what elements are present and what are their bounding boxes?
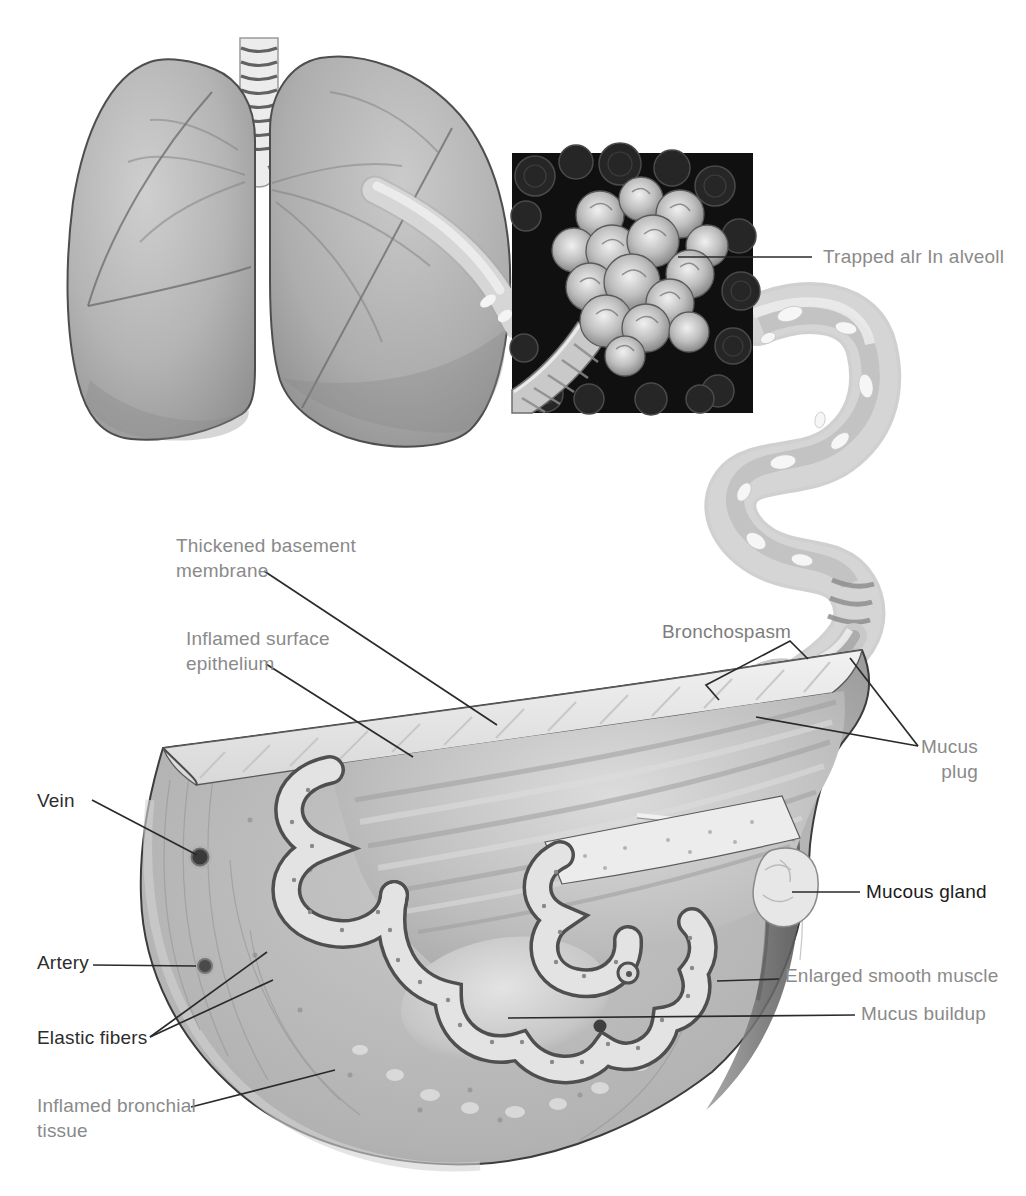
lungs-illustration — [68, 38, 516, 447]
bronchiole-cross-section — [141, 650, 869, 1167]
label-mucous-gland: Mucous gland — [866, 879, 987, 904]
small-vessel-dot — [594, 1020, 607, 1033]
artery-dot — [195, 956, 215, 976]
label-mucus-buildup: Mucus buildup — [861, 1001, 986, 1026]
label-artery: Artery — [37, 950, 89, 975]
label-bronchospasm: Bronchospasm — [662, 619, 791, 644]
label-inflamed-tissue: Inflamed bronchial tissue — [37, 1093, 196, 1143]
duct-ring — [618, 963, 638, 983]
mucous-gland-shape — [753, 848, 818, 927]
leader-artery — [93, 965, 196, 966]
vein-dot — [188, 845, 212, 869]
label-enlarged-muscle: Enlarged smooth muscle — [785, 963, 999, 988]
label-mucus-plug: Mucus plug — [878, 734, 978, 784]
label-inflamed-epithelium: Inflamed surface epithelium — [186, 626, 330, 676]
right-lung — [68, 59, 255, 440]
asthma-illustration: Trapped alr In alveoll Thickened basemen… — [0, 0, 1026, 1196]
label-vein: Vein — [37, 788, 75, 813]
label-thickened-membrane: Thickened basement membrane — [176, 533, 356, 583]
label-trapped-air: Trapped alr In alveoll — [823, 244, 1004, 269]
label-elastic-fibers: Elastic fibers — [37, 1025, 148, 1050]
alveoli-inset — [510, 143, 760, 415]
